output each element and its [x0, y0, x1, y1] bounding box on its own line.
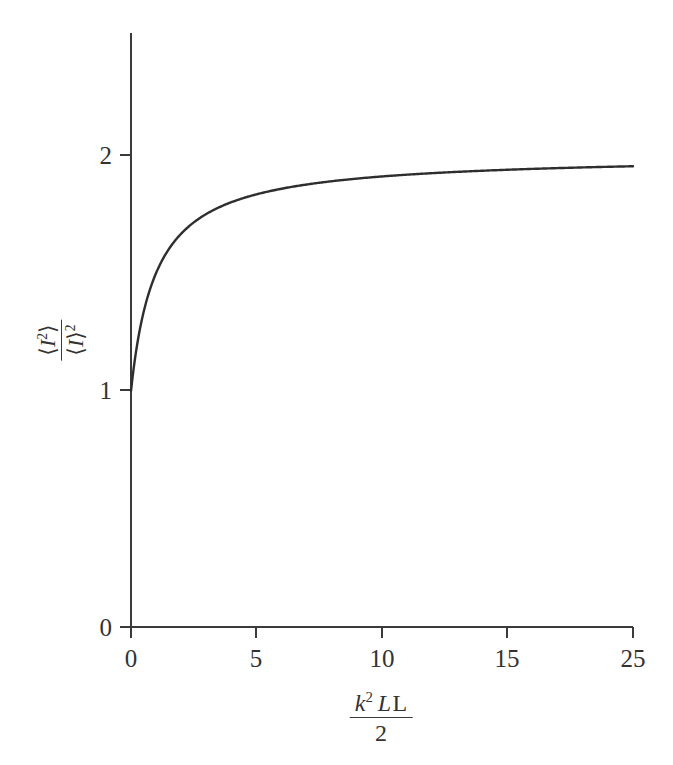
x-axis-ticks: [131, 627, 633, 638]
y-num-bracket-open: ⟨: [35, 347, 60, 356]
x-tick-label-0: 0: [125, 646, 138, 671]
figure-container: 0 1 2 0 5 10 15 25 ⟨I2⟩ ⟨I⟩2 k2LL 2: [0, 0, 673, 765]
x-axis-title: k2LL 2: [350, 691, 413, 745]
y-axis-ticks: [120, 155, 131, 627]
x-axis-title-fraction: k2LL 2: [350, 691, 413, 745]
y-den-bracket-close: ⟩: [63, 331, 88, 340]
x-num-L-upright: L: [393, 690, 408, 716]
data-curve: [131, 166, 633, 391]
x-axis-title-numerator: k2LL: [350, 691, 413, 718]
y-num-bracket-close: ⟩: [35, 324, 60, 333]
y-axis-title: ⟨I2⟩ ⟨I⟩2: [37, 319, 87, 360]
x-tick-label-5: 5: [250, 646, 263, 671]
y-den-symbol: I: [63, 340, 88, 347]
x-tick-label-10: 10: [370, 646, 395, 671]
x-tick-label-25: 25: [621, 646, 646, 671]
y-den-exponent: 2: [63, 324, 78, 331]
y-axis-title-denominator: ⟨I⟩2: [62, 319, 87, 360]
x-num-L-italic: L: [378, 690, 393, 716]
y-axis-title-numerator: ⟨I2⟩: [37, 319, 62, 360]
y-axis-title-fraction: ⟨I2⟩ ⟨I⟩2: [37, 319, 87, 360]
x-axis-title-denominator: 2: [350, 718, 413, 745]
y-tick-label-2: 2: [100, 143, 113, 168]
y-tick-label-0: 0: [100, 615, 113, 640]
x-num-k-exponent: 2: [365, 689, 372, 705]
y-num-exponent: 2: [35, 333, 50, 340]
x-tick-label-15: 15: [495, 646, 520, 671]
y-num-symbol: I: [35, 340, 60, 347]
y-tick-label-1: 1: [100, 378, 113, 403]
y-den-bracket-open: ⟨: [63, 347, 88, 356]
x-num-k: k: [355, 690, 366, 716]
